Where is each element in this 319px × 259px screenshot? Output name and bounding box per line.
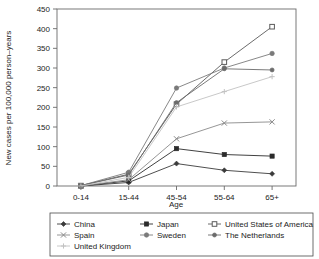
y-tick-label: 100 xyxy=(37,143,51,152)
series-marker xyxy=(174,161,179,166)
legend-item-china[interactable]: China xyxy=(57,220,95,229)
series-line xyxy=(81,122,272,186)
legend-label: Spain xyxy=(74,231,94,240)
y-tick-label: 400 xyxy=(37,25,51,34)
y-tick-label: 350 xyxy=(37,44,51,53)
series-layer xyxy=(78,24,274,188)
x-tick-label: 15-44 xyxy=(118,193,139,202)
legend-layer: ChinaSpainUnited KingdomJapanSwedenUnite… xyxy=(57,220,314,251)
legend-marker xyxy=(212,222,217,227)
legend-label: Japan xyxy=(157,220,179,229)
series-marker xyxy=(174,136,179,141)
legend-label: The Netherlands xyxy=(225,231,284,240)
legend-item-japan[interactable]: Japan xyxy=(140,220,179,229)
series-line xyxy=(81,77,272,186)
legend-marker xyxy=(144,222,148,226)
series-sweden xyxy=(79,51,275,188)
chart-canvas: New cases per 100,000 person–years 05010… xyxy=(0,0,319,259)
y-tick-label: 150 xyxy=(37,123,51,132)
x-axis-ticks xyxy=(81,186,272,190)
y-axis-tick-labels: 050100150200250300350400450 xyxy=(37,5,51,191)
series-marker xyxy=(222,67,226,71)
series-marker xyxy=(270,24,275,29)
legend-item-united-kingdom[interactable]: United Kingdom xyxy=(57,242,131,251)
x-tick-label: 55-64 xyxy=(214,193,235,202)
y-axis-title: New cases per 100,000 person–years xyxy=(4,31,13,166)
legend-label: United Kingdom xyxy=(74,242,131,251)
y-tick-label: 50 xyxy=(41,162,50,171)
legend-marker xyxy=(213,233,217,237)
legend-marker xyxy=(144,233,148,237)
legend-label: Sweden xyxy=(157,231,186,240)
series-marker xyxy=(270,68,274,72)
series-marker xyxy=(222,152,226,156)
legend-label: China xyxy=(74,220,95,229)
y-tick-label: 250 xyxy=(37,84,51,93)
series-marker xyxy=(270,74,275,79)
series-marker xyxy=(270,171,275,176)
x-tick-label: 65+ xyxy=(265,193,279,202)
y-tick-label: 0 xyxy=(46,182,51,191)
series-marker xyxy=(270,51,274,55)
series-japan xyxy=(79,147,274,189)
legend-item-the-netherlands[interactable]: The Netherlands xyxy=(208,231,284,240)
series-marker xyxy=(270,154,274,158)
y-tick-label: 200 xyxy=(37,103,51,112)
legend-label: United States of America xyxy=(225,220,314,229)
line-chart-figure: New cases per 100,000 person–years 05010… xyxy=(0,0,319,259)
series-marker xyxy=(222,60,227,65)
legend-marker xyxy=(61,243,66,248)
series-marker xyxy=(222,168,227,173)
series-marker xyxy=(174,86,178,90)
legend-item-united-states-of-america[interactable]: United States of America xyxy=(208,220,314,229)
series-marker xyxy=(222,89,227,94)
y-tick-label: 300 xyxy=(37,64,51,73)
y-tick-label: 450 xyxy=(37,5,51,14)
legend-marker xyxy=(61,222,66,227)
x-tick-label: 0-14 xyxy=(73,193,90,202)
legend-item-spain[interactable]: Spain xyxy=(57,231,94,240)
legend-item-sweden[interactable]: Sweden xyxy=(140,231,186,240)
x-axis-title: Age xyxy=(169,200,184,209)
y-axis-ticks xyxy=(53,9,57,186)
series-marker xyxy=(174,147,178,151)
series-china xyxy=(78,161,274,188)
series-marker xyxy=(175,101,179,105)
